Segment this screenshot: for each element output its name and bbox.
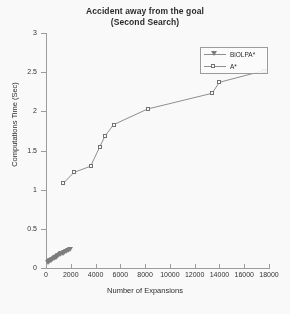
triangle-down-icon (211, 51, 217, 56)
chart-figure: Accident away from the goal (Second Sear… (0, 0, 290, 314)
y-tick-label: 3 (7, 29, 37, 36)
y-tick-label: 0 (7, 264, 37, 271)
data-point-square (98, 145, 102, 149)
square-icon (211, 64, 215, 68)
data-point-square (89, 164, 93, 168)
y-axis-label: Computations Time (Sec) (10, 45, 19, 205)
chart-title-line1: Accident away from the goal (0, 6, 290, 17)
data-point-square (112, 123, 116, 127)
data-point-triangle (67, 247, 73, 252)
legend-item-astar[interactable]: A* (203, 61, 265, 72)
x-tick-label: 18000 (249, 271, 289, 278)
x-axis-line (46, 268, 270, 269)
x-axis-label: Number of Expansions (0, 286, 290, 295)
y-tick-label: 0.5 (7, 225, 37, 232)
legend-item-biolpa[interactable]: BiOLPA* (203, 49, 265, 60)
legend-label-biolpa: BiOLPA* (230, 49, 255, 60)
data-point-square (72, 170, 76, 174)
data-point-square (103, 134, 107, 138)
data-point-square (210, 91, 214, 95)
data-point-square (146, 107, 150, 111)
legend-label-astar: A* (230, 61, 237, 72)
chart-legend[interactable]: BiOLPA* A* (200, 47, 268, 74)
data-point-square (217, 80, 221, 84)
data-point-square (61, 181, 65, 185)
series-line (63, 71, 264, 184)
legend-line-astar (204, 66, 226, 67)
x-tick (269, 264, 270, 269)
chart-title: Accident away from the goal (Second Sear… (0, 6, 290, 28)
chart-title-line2: (Second Search) (0, 17, 290, 28)
